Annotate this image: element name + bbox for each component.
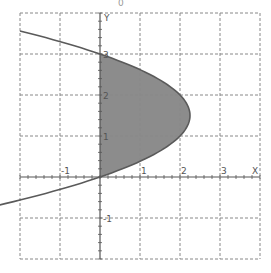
- y-tick-label: 3: [103, 50, 109, 60]
- x-tick-label: 1: [141, 166, 147, 176]
- chart: -1123321-1XY0: [0, 0, 271, 273]
- y-tick-label: -1: [103, 214, 112, 224]
- x-tick-label: 2: [181, 166, 187, 176]
- x-tick-label: 3: [221, 166, 227, 176]
- x-axis-label: X: [252, 166, 258, 176]
- x-tick-label: -1: [61, 166, 70, 176]
- y-tick-label: 1: [103, 132, 109, 142]
- chart-title: 0: [118, 0, 124, 8]
- y-axis-label: Y: [103, 13, 110, 23]
- y-tick-label: 2: [103, 91, 109, 101]
